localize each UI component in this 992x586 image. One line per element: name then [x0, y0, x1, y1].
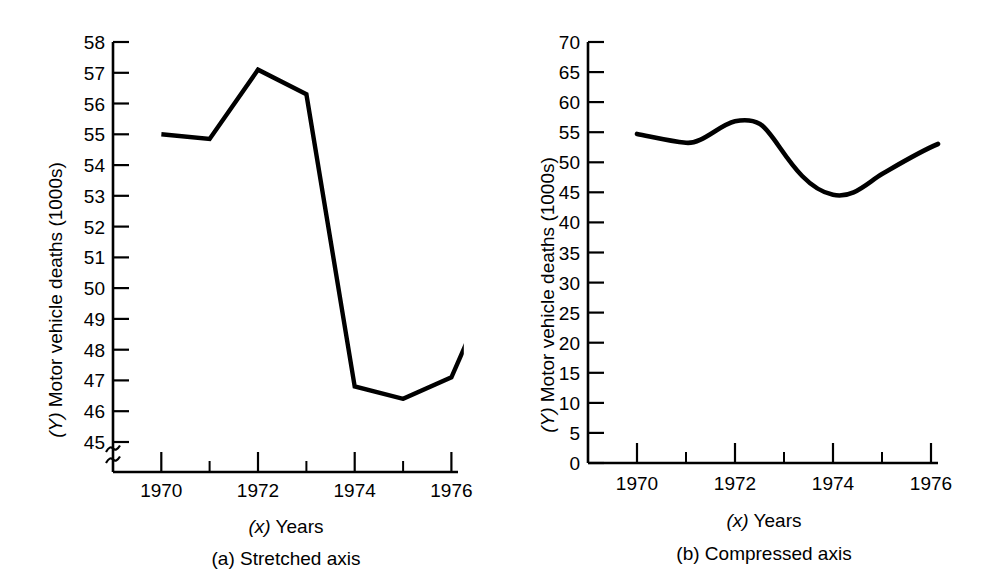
y-tick-label-b: 25 [559, 303, 580, 324]
y-tick-label-b: 0 [569, 453, 580, 474]
y-axis-title-a: (Y) Motor vehicle deaths (1000s) [45, 162, 66, 438]
x-axis-title-b-text: Years [749, 510, 802, 531]
x-tick-label-a: 1972 [237, 480, 279, 501]
chart-panel-compressed-axis: (Y) Motor vehicle deaths (1000s) [496, 0, 992, 586]
y-tick-labels-b: 0 5 10 15 20 25 30 35 40 45 50 55 60 65 … [559, 32, 580, 474]
y-tick-label-b: 20 [559, 333, 580, 354]
y-tick-label-b: 15 [559, 363, 580, 384]
y-axis-title-b-prefix: (Y) [537, 407, 558, 432]
y-tick-marks-a [113, 42, 129, 442]
y-tick-label-a: 51 [84, 247, 105, 268]
y-axis-title-a-text: Motor vehicle deaths (1000s) [45, 162, 66, 412]
y-tick-label-b: 35 [559, 243, 580, 264]
y-axis-title-b: (Y) Motor vehicle deaths (1000s) [537, 157, 558, 433]
x-tick-labels-b: 1970 1972 1974 1976 [616, 473, 952, 494]
y-tick-label-a: 46 [84, 401, 105, 422]
x-tick-label-a: 1970 [140, 480, 182, 501]
y-tick-label-b: 45 [559, 182, 580, 203]
chart-svg-stretched: (Y) Motor vehicle deaths (1000s) [0, 0, 496, 586]
panel-caption-b: (b) Compressed axis [676, 543, 851, 564]
chart-svg-compressed: (Y) Motor vehicle deaths (1000s) [496, 0, 992, 586]
chart-panel-stretched-axis: (Y) Motor vehicle deaths (1000s) [0, 0, 496, 586]
y-tick-label-a: 52 [84, 217, 105, 238]
y-axis-break-icon-a [106, 446, 120, 465]
y-tick-label-a: 56 [84, 94, 105, 115]
y-axis-title-b-text: Motor vehicle deaths (1000s) [537, 157, 558, 407]
y-tick-label-b: 40 [559, 212, 580, 233]
x-tick-labels-a: 1970 1972 1974 1976 [140, 480, 472, 501]
x-axis-title-a: (x) Years [249, 516, 324, 537]
x-tick-label-b: 1974 [812, 473, 855, 494]
x-minor-tick-marks-b [686, 452, 882, 463]
x-tick-label-a: 1976 [430, 480, 472, 501]
y-axis-title-a-prefix: (Y) [45, 412, 66, 437]
y-tick-label-a: 47 [84, 370, 105, 391]
y-tick-labels-a: 45 46 47 48 49 50 51 52 53 54 55 56 57 5… [84, 32, 106, 453]
y-tick-label-b: 30 [559, 273, 580, 294]
data-line-stretched [161, 70, 496, 399]
y-tick-label-b: 60 [559, 92, 580, 113]
x-axis-title-a-prefix: (x) [249, 516, 271, 537]
y-tick-label-b: 5 [569, 423, 580, 444]
y-tick-label-b: 50 [559, 152, 580, 173]
x-tick-label-b: 1972 [714, 473, 756, 494]
x-axis-title-a-text: Years [271, 516, 324, 537]
panel-caption-a: (a) Stretched axis [212, 548, 361, 569]
y-tick-label-a: 58 [84, 32, 105, 53]
figure-container: (Y) Motor vehicle deaths (1000s) [0, 0, 992, 586]
y-tick-label-a: 45 [84, 432, 105, 453]
y-tick-label-a: 50 [84, 278, 105, 299]
y-tick-label-a: 53 [84, 186, 105, 207]
y-tick-label-a: 48 [84, 340, 105, 361]
y-tick-label-a: 57 [84, 63, 105, 84]
y-tick-label-b: 65 [559, 62, 580, 83]
x-axis-title-b-prefix: (x) [727, 510, 749, 531]
y-tick-label-b: 70 [559, 32, 580, 53]
y-tick-marks-b [588, 42, 604, 463]
x-tick-label-a: 1974 [334, 480, 377, 501]
x-tick-label-b: 1970 [616, 473, 658, 494]
y-tick-label-a: 49 [84, 309, 105, 330]
x-axis-title-b: (x) Years [727, 510, 802, 531]
y-tick-label-b: 10 [559, 393, 580, 414]
data-line-compressed [637, 120, 938, 195]
x-tick-label-b: 1976 [910, 473, 952, 494]
x-minor-tick-marks-a [210, 461, 404, 472]
y-tick-label-a: 54 [84, 155, 106, 176]
y-tick-label-b: 55 [559, 122, 580, 143]
y-tick-label-a: 55 [84, 124, 105, 145]
